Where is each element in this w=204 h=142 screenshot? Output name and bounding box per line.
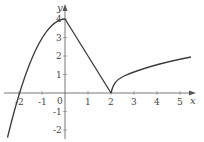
curve-right-sqrt: [111, 57, 191, 93]
x-axis-label: x: [190, 95, 196, 106]
x-tick-label: 2: [108, 97, 114, 107]
x-tick-label: 3: [131, 97, 137, 107]
function-graph: -2 -1 0 1 2 3 4 5 4 3 2 1 -1 -2 y x: [0, 0, 204, 142]
y-tick-label: 3: [56, 33, 62, 43]
y-tick-label: 2: [56, 51, 62, 61]
y-axis-arrow-icon: [63, 4, 68, 11]
x-tick-label: -2: [15, 97, 24, 107]
x-tick-label: 4: [154, 97, 160, 107]
x-tick-label: 0: [57, 96, 63, 106]
x-tick-label: 5: [177, 97, 183, 107]
y-tick-label: 4: [56, 14, 62, 24]
y-axis-label: y: [56, 2, 63, 13]
y-tick-label: -1: [53, 107, 62, 117]
curve-middle-line: [65, 19, 111, 93]
x-tick-label: 1: [85, 97, 91, 107]
y-tick-label: 1: [56, 70, 62, 80]
y-tick-label: -2: [53, 125, 62, 135]
x-tick-label: -1: [38, 97, 47, 107]
